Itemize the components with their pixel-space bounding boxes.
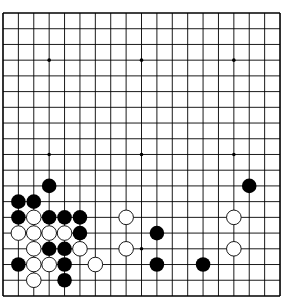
- black-stone[interactable]: [11, 194, 26, 209]
- white-stone[interactable]: [26, 273, 41, 288]
- white-stone[interactable]: [227, 210, 242, 225]
- black-stone[interactable]: [26, 194, 41, 209]
- star-point: [47, 153, 51, 157]
- white-stone[interactable]: [73, 242, 88, 257]
- black-stone[interactable]: [57, 210, 72, 225]
- black-stone[interactable]: [57, 242, 72, 257]
- black-stone[interactable]: [57, 273, 72, 288]
- white-stone[interactable]: [119, 210, 134, 225]
- white-stone[interactable]: [26, 242, 41, 257]
- black-stone[interactable]: [150, 226, 165, 241]
- star-point: [232, 153, 236, 157]
- white-stone[interactable]: [42, 226, 57, 241]
- black-stone[interactable]: [242, 179, 257, 194]
- star-point: [47, 58, 51, 62]
- star-point: [140, 247, 144, 251]
- star-point: [140, 153, 144, 157]
- white-stone[interactable]: [227, 242, 242, 257]
- star-point: [232, 58, 236, 62]
- white-stone[interactable]: [26, 226, 41, 241]
- black-stone[interactable]: [73, 210, 88, 225]
- white-stone[interactable]: [26, 257, 41, 272]
- white-stone[interactable]: [88, 257, 103, 272]
- star-point: [140, 58, 144, 62]
- go-board[interactable]: [0, 0, 284, 304]
- white-stone[interactable]: [11, 226, 26, 241]
- black-stone[interactable]: [42, 210, 57, 225]
- white-stone[interactable]: [42, 257, 57, 272]
- black-stone[interactable]: [42, 179, 57, 194]
- black-stone[interactable]: [73, 226, 88, 241]
- black-stone[interactable]: [57, 257, 72, 272]
- white-stone[interactable]: [119, 242, 134, 257]
- black-stone[interactable]: [150, 257, 165, 272]
- black-stone[interactable]: [42, 242, 57, 257]
- black-stone[interactable]: [11, 257, 26, 272]
- white-stone[interactable]: [26, 210, 41, 225]
- black-stone[interactable]: [11, 210, 26, 225]
- white-stone[interactable]: [57, 226, 72, 241]
- black-stone[interactable]: [196, 257, 211, 272]
